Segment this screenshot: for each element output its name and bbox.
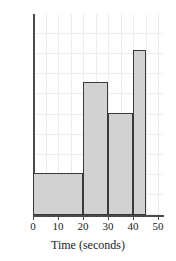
- histogram-bar: [33, 173, 83, 215]
- histogram-bar: [133, 50, 146, 215]
- x-axis-tick-label: 40: [121, 220, 145, 233]
- x-axis-tick-label: 10: [46, 220, 70, 233]
- x-axis-tick-label: 20: [71, 220, 95, 233]
- histogram-bar: [108, 113, 133, 216]
- histogram-bar: [83, 82, 108, 215]
- histogram-figure: 01020304050 Time (seconds): [0, 0, 176, 261]
- bar-series: [33, 14, 163, 215]
- x-axis-line: [33, 215, 164, 217]
- x-axis-tick-label: 30: [96, 220, 120, 233]
- x-axis-tick-label: 0: [21, 220, 45, 233]
- x-axis-title: Time (seconds): [0, 238, 176, 253]
- plot-area: [33, 14, 163, 215]
- x-axis-tick-label: 50: [146, 220, 170, 233]
